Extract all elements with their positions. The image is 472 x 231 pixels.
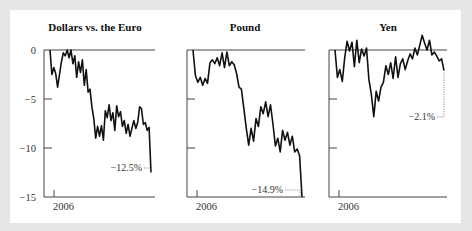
x-tick-label: 2006 [53,201,74,212]
annotation-leader [437,73,444,117]
x-tick-label: 2006 [338,201,359,212]
chart-title: Yen [379,21,397,33]
chart-title: Pound [230,21,261,33]
x-tick-label: 2006 [196,201,217,212]
series-line-dollars-vs-euro [50,50,151,173]
chart-yen: Yen 2006 −2.1% [329,21,447,212]
annotation-leader [285,190,300,196]
y-tick-label: −10 [20,143,36,154]
charts-svg: Dollars vs. the Euro 0 −5 −10 −15 2006 −… [0,0,472,231]
y-tick-label: −5 [25,94,36,105]
series-line-yen [335,35,444,116]
annotation-label: −12.5% [111,162,142,173]
y-axis: 0 −5 −10 −15 [20,45,52,203]
series-line-pound [193,50,302,197]
chart-pound: Pound 2006 −14.9% [187,21,305,212]
chart-figure: Dollars vs. the Euro 0 −5 −10 −15 2006 −… [0,0,472,231]
y-tick-label: −15 [20,192,36,203]
chart-title: Dollars vs. the Euro [48,21,142,33]
annotation-label: −14.9% [252,184,283,195]
annotation-leader [144,168,151,173]
chart-dollars-vs-euro: Dollars vs. the Euro 0 −5 −10 −15 2006 −… [20,21,155,212]
annotation-label: −2.1% [409,111,435,122]
y-tick-label: 0 [31,45,36,56]
